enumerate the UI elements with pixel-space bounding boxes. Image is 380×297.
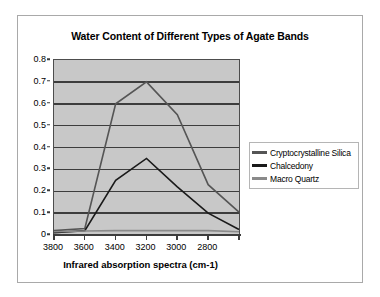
y-tick-mark: [47, 211, 50, 213]
x-tick-mark: [238, 235, 240, 240]
legend-swatch-icon: [252, 151, 267, 154]
x-tick-mark: [207, 235, 209, 240]
chart-title: Water Content of Different Types of Agat…: [18, 30, 362, 42]
series-line: [54, 231, 239, 232]
y-tick-mark: [47, 233, 50, 235]
x-axis-ticks: [53, 235, 239, 240]
legend-label: Chalcedony: [270, 161, 313, 171]
chart-frame: Water Content of Different Types of Agat…: [17, 15, 363, 283]
legend-item[interactable]: Chalcedony: [252, 159, 355, 172]
x-tick-mark: [84, 235, 86, 240]
y-tick-label: 0.8: [33, 54, 46, 64]
x-tick-label: 3000: [166, 242, 186, 252]
y-tick-label: 0.5: [33, 120, 46, 130]
x-tick-label: 3400: [105, 242, 125, 252]
x-tick-label: 3200: [135, 242, 155, 252]
y-tick-mark: [47, 58, 50, 60]
x-tick-mark: [176, 235, 178, 240]
legend-item[interactable]: Macro Quartz: [252, 172, 355, 185]
legend: Cryptocrystalline SilicaChalcedonyMacro …: [249, 142, 359, 189]
y-tick-label: 0.7: [33, 76, 46, 86]
legend-swatch-icon: [252, 177, 267, 180]
y-tick-mark: [47, 102, 50, 104]
y-tick-mark: [47, 124, 50, 126]
y-tick-label: 0.2: [33, 185, 46, 195]
x-tick-label: 3800: [43, 242, 63, 252]
y-tick-label: 0.4: [33, 142, 46, 152]
plot-area: [53, 59, 240, 235]
series-lines: [54, 60, 239, 235]
y-axis: 00.10.20.30.40.50.60.70.8: [18, 59, 50, 234]
legend-label: Cryptocrystalline Silica: [270, 148, 351, 158]
y-tick-label: 0.3: [33, 163, 46, 173]
x-tick-mark: [53, 235, 55, 240]
x-tick-mark: [115, 235, 117, 240]
legend-swatch-icon: [252, 164, 267, 167]
y-tick-mark: [47, 146, 50, 148]
y-tick-mark: [47, 168, 50, 170]
y-tick-mark: [47, 80, 50, 82]
x-tick-label: 2800: [197, 242, 217, 252]
x-axis-title: Infrared absorption spectra (cm-1): [28, 259, 253, 270]
x-axis-labels: 380036003400320030002800: [53, 242, 239, 256]
legend-item[interactable]: Cryptocrystalline Silica: [252, 146, 355, 159]
y-tick-label: 0.1: [33, 207, 46, 217]
series-line: [54, 82, 239, 231]
x-tick-label: 3600: [74, 242, 94, 252]
y-tick-label: 0.6: [33, 98, 46, 108]
x-tick-mark: [146, 235, 148, 240]
y-tick-mark: [47, 190, 50, 192]
series-line: [54, 158, 239, 232]
y-tick-label: 0: [41, 229, 46, 239]
legend-label: Macro Quartz: [270, 174, 319, 184]
